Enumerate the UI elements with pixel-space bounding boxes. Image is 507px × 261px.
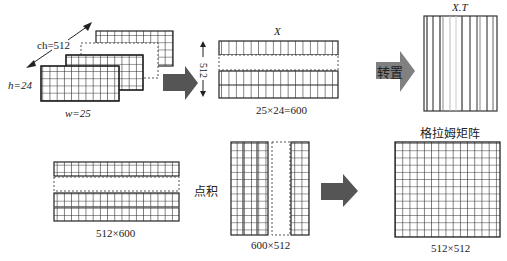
channels-label: ch=512 bbox=[37, 39, 70, 51]
width-label: w=25 bbox=[65, 107, 91, 119]
gram-matrix bbox=[395, 142, 500, 237]
transpose-label: 转置 bbox=[377, 62, 403, 81]
left-operand-dims: 512×600 bbox=[96, 227, 135, 239]
x-matrix-dims: 25×24=600 bbox=[256, 104, 307, 116]
gram-matrix-dims: 512×512 bbox=[431, 242, 470, 254]
left-operand-matrix bbox=[54, 162, 179, 221]
gram-matrix-title: 格拉姆矩阵 bbox=[420, 124, 480, 141]
xt-matrix-title: X.T bbox=[452, 1, 468, 13]
x-matrix bbox=[219, 41, 338, 98]
x-matrix-title: X bbox=[274, 25, 281, 37]
height-label: h=24 bbox=[8, 79, 32, 91]
right-operand-dims: 600×512 bbox=[251, 239, 290, 251]
right-operand-matrix bbox=[231, 142, 309, 235]
dot-product-label: 点积 bbox=[194, 182, 218, 199]
row-dimension-label: 512 bbox=[198, 63, 209, 78]
result-arrow bbox=[321, 174, 358, 207]
reshape-arrow bbox=[163, 66, 198, 100]
xt-matrix bbox=[424, 16, 497, 111]
